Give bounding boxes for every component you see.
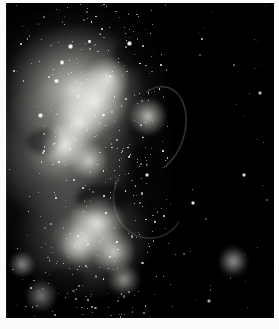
star-point — [94, 136, 96, 138]
star-point — [61, 131, 62, 132]
mount-border-top — [0, 0, 279, 3]
star-point — [142, 45, 144, 47]
star-point — [128, 173, 129, 174]
star-point — [109, 256, 111, 258]
star-point — [141, 100, 143, 102]
star-point — [102, 117, 103, 118]
star-point — [118, 297, 119, 298]
star-point — [161, 54, 162, 55]
star-point — [125, 190, 127, 192]
star-point — [52, 74, 53, 75]
star-point — [31, 63, 32, 64]
star-point — [151, 56, 152, 57]
star-point — [87, 129, 88, 130]
star-point — [45, 243, 46, 244]
star-point — [65, 200, 66, 201]
star-point — [236, 104, 237, 105]
mount-border-bottom — [0, 318, 279, 329]
star-point — [76, 289, 77, 290]
star-point — [69, 148, 71, 150]
star-point — [49, 260, 51, 262]
star-point — [121, 293, 123, 295]
star-point — [40, 216, 42, 218]
star-point — [119, 175, 121, 177]
star-point — [134, 203, 135, 204]
star-point — [140, 163, 142, 165]
star-point — [139, 63, 141, 65]
star-point — [50, 223, 52, 225]
star-point — [136, 14, 138, 16]
mount-border-right — [274, 0, 279, 329]
star-point — [16, 71, 17, 72]
star-point — [128, 156, 130, 158]
star-point — [230, 277, 231, 278]
star-point — [54, 192, 55, 193]
star-point — [58, 293, 59, 294]
star-point — [152, 121, 153, 122]
star-point — [101, 5, 103, 7]
star-point — [257, 139, 258, 140]
star-point — [257, 247, 258, 248]
star-point — [65, 165, 66, 166]
star-point — [52, 164, 53, 165]
star-point — [138, 291, 139, 292]
star-point — [49, 259, 50, 260]
star-point — [113, 269, 115, 271]
star-point — [134, 295, 135, 296]
star-point — [38, 23, 40, 25]
star-point — [103, 37, 105, 39]
star-point — [55, 136, 56, 137]
star-point — [105, 212, 107, 214]
star-point — [91, 21, 93, 23]
star-point — [167, 157, 169, 159]
star-point — [39, 173, 40, 174]
star-point — [191, 201, 195, 205]
star-point — [85, 185, 86, 186]
star-point — [163, 96, 165, 98]
star-point — [38, 113, 43, 118]
star-point — [138, 232, 139, 233]
star-point — [38, 291, 39, 292]
star-point — [114, 170, 115, 171]
star-point — [67, 293, 68, 294]
star-point — [76, 81, 77, 82]
star-point — [110, 197, 112, 199]
star-point — [139, 93, 140, 94]
star-point — [117, 300, 119, 302]
star-point — [148, 92, 150, 94]
star-point — [16, 5, 17, 6]
star-point — [92, 191, 94, 193]
star-point — [84, 110, 86, 112]
star-point — [130, 154, 131, 155]
star-point — [43, 16, 45, 18]
star-point — [64, 24, 65, 25]
star-point — [107, 293, 108, 294]
star-point — [148, 243, 150, 245]
star-point — [114, 261, 115, 262]
star-point — [69, 60, 70, 61]
star-point — [121, 105, 123, 107]
star-point — [128, 233, 129, 234]
star-point — [151, 148, 152, 149]
star-point — [66, 238, 67, 239]
star-point — [145, 29, 146, 30]
star-point — [162, 141, 163, 142]
star-point — [153, 240, 155, 242]
star-point — [95, 275, 97, 277]
star-point — [211, 11, 212, 12]
mount-border-left — [0, 0, 6, 329]
star-point — [136, 237, 137, 238]
star-point — [79, 266, 80, 267]
star-point — [156, 276, 157, 277]
star-point — [126, 71, 128, 73]
star-point — [138, 122, 139, 123]
star-point — [91, 102, 92, 103]
star-point — [151, 92, 152, 93]
image-plate — [0, 0, 279, 329]
star-point — [145, 65, 147, 67]
star-point — [29, 35, 31, 37]
star-point — [165, 228, 166, 229]
star-point — [30, 287, 32, 289]
star-point — [165, 160, 166, 161]
star-point — [73, 137, 74, 138]
